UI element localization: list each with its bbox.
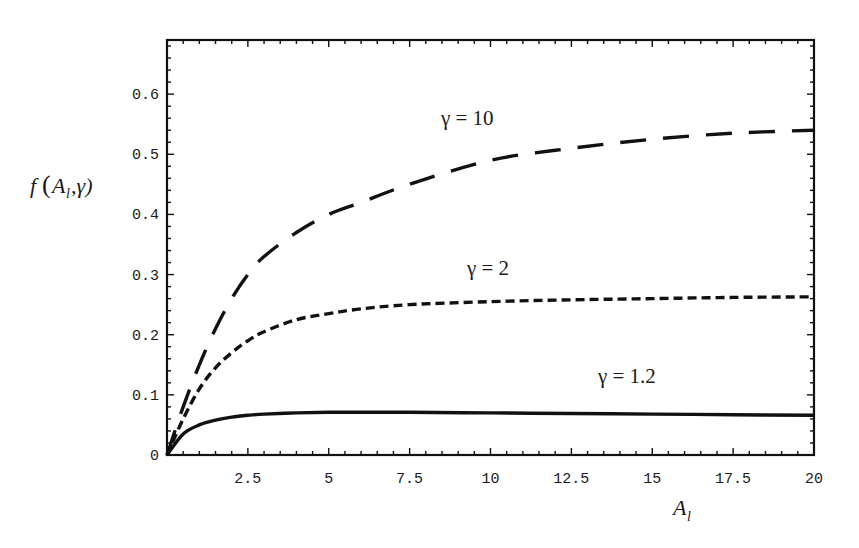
series-line-gamma-10 bbox=[167, 130, 814, 455]
annotation-gamma-1-2: γ = 1.2 bbox=[597, 364, 656, 388]
x-tick-label: 17.5 bbox=[715, 471, 751, 488]
y-tick-label: 0.3 bbox=[132, 268, 159, 285]
frame-border bbox=[167, 40, 814, 455]
series-lines bbox=[167, 130, 814, 455]
x-tick-label: 15 bbox=[643, 471, 661, 488]
x-tick-label: 7.5 bbox=[396, 471, 423, 488]
x-tick-label: 12.5 bbox=[553, 471, 589, 488]
y-tick-label: 0 bbox=[150, 448, 159, 465]
x-tick-label: 2.5 bbox=[234, 471, 261, 488]
x-tick-label: 10 bbox=[481, 471, 499, 488]
chart: 2.557.51012.51517.52000.10.20.30.40.50.6… bbox=[0, 0, 859, 548]
y-tick-label: 0.2 bbox=[132, 328, 159, 345]
x-label-A: A bbox=[671, 495, 687, 520]
annotation-gamma-10: γ = 10 bbox=[440, 106, 494, 130]
series-line-gamma-2 bbox=[167, 297, 814, 455]
y-tick-label: 0.5 bbox=[132, 147, 159, 164]
y-label-subscript: l bbox=[66, 186, 70, 201]
y-label-f: f bbox=[30, 173, 39, 198]
annotation-gamma-2: γ = 2 bbox=[466, 256, 509, 280]
y-tick-label: 0.6 bbox=[132, 87, 159, 104]
x-tick-label: 20 bbox=[805, 471, 823, 488]
x-tick-label: 5 bbox=[324, 471, 333, 488]
x-label-subscript: l bbox=[687, 509, 691, 524]
tick-labels: 2.557.51012.51517.52000.10.20.30.40.50.6 bbox=[132, 87, 823, 488]
plot-frame bbox=[167, 40, 814, 455]
plot-area: 2.557.51012.51517.52000.10.20.30.40.50.6… bbox=[0, 0, 859, 548]
y-label-rest: ,γ) bbox=[71, 173, 93, 198]
y-tick-label: 0.1 bbox=[132, 388, 159, 405]
x-axis-label: A l bbox=[671, 495, 691, 524]
y-label-open-paren: ( bbox=[42, 170, 51, 199]
y-axis-label: f ( A l ,γ) bbox=[30, 170, 93, 201]
y-label-A: A bbox=[50, 173, 66, 198]
y-tick-label: 0.4 bbox=[132, 207, 159, 224]
axis-ticks bbox=[167, 40, 814, 455]
